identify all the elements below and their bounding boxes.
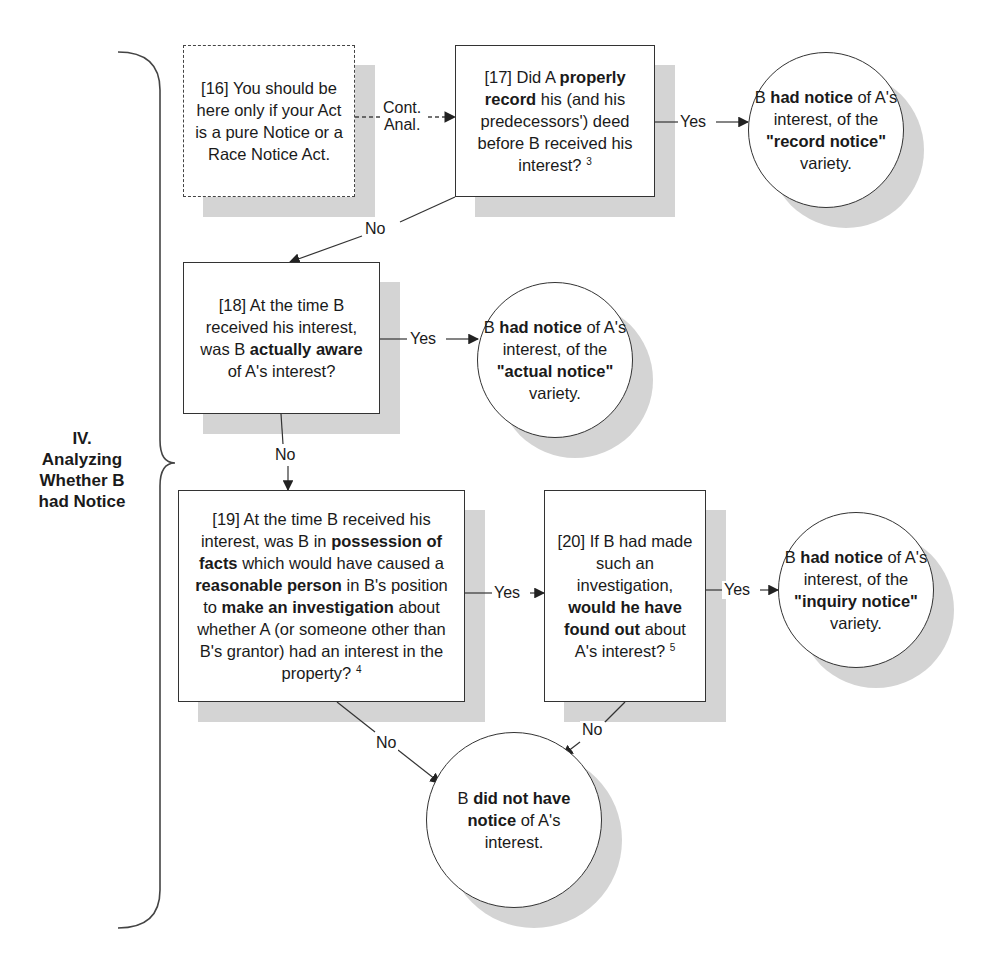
text-bold: actually aware xyxy=(250,340,363,358)
inquiry-notice-text: B had notice of A's interest, of the "in… xyxy=(782,546,930,634)
cont-line-2: Anal. xyxy=(383,116,421,133)
node-17-text-a: [17] Did A xyxy=(484,68,559,86)
node-17-text: [17] Did A properly record his (and his … xyxy=(464,66,646,176)
record-notice-text: B had notice of A's interest, of the "re… xyxy=(752,86,900,174)
text: variety. xyxy=(529,384,581,402)
node-19-text: [19] At the time B received his interest… xyxy=(189,508,454,684)
node-19: [19] At the time B received his interest… xyxy=(178,490,465,702)
edge-label-19-no: No xyxy=(374,734,398,752)
edge-label-cont-anal: Cont. Anal. xyxy=(381,99,423,133)
text: [20] If B had made such an investigation… xyxy=(558,532,693,594)
section-title-line-3: had Notice xyxy=(28,491,136,512)
footnote-5: 5 xyxy=(670,642,676,653)
text: B xyxy=(755,88,771,106)
text-bold: "record notice" xyxy=(766,132,886,150)
no-notice-outcome: B did not have notice of A's interest. xyxy=(426,732,602,908)
text-bold: "actual notice" xyxy=(497,362,614,380)
text: B xyxy=(484,318,500,336)
node-16-text: [16] You should be here only if your Act… xyxy=(194,77,344,165)
footnote-3: 3 xyxy=(586,156,592,167)
text: variety. xyxy=(830,614,882,632)
edge-label-17-no: No xyxy=(363,220,387,238)
cont-line-1: Cont. xyxy=(383,99,421,116)
edge-label-19-yes: Yes xyxy=(492,584,522,602)
node-17: [17] Did A properly record his (and his … xyxy=(455,45,655,197)
edge-label-18-no: No xyxy=(273,446,297,464)
text-bold: reasonable person xyxy=(195,576,342,594)
node-16: [16] You should be here only if your Act… xyxy=(183,45,355,197)
inquiry-notice-outcome: B had notice of A's interest, of the "in… xyxy=(778,512,934,668)
section-label: IV. Analyzing Whether B had Notice xyxy=(28,428,136,512)
text: variety. xyxy=(800,154,852,172)
section-title-line-2: Whether B xyxy=(28,470,136,491)
flowchart-canvas: IV. Analyzing Whether B had Notice [16] … xyxy=(0,0,996,966)
section-title-line-1: Analyzing xyxy=(28,449,136,470)
no-notice-text: B did not have notice of A's interest. xyxy=(453,787,575,853)
node-18: [18] At the time B received his interest… xyxy=(183,262,380,414)
text-bold: make an investigation xyxy=(222,598,394,616)
actual-notice-outcome: B had notice of A's interest, of the "ac… xyxy=(477,282,633,438)
text: of A's interest? xyxy=(228,362,336,380)
section-number: IV. xyxy=(28,428,136,449)
actual-notice-text: B had notice of A's interest, of the "ac… xyxy=(481,316,629,404)
text-bold: had notice xyxy=(770,88,853,106)
edge-label-20-yes: Yes xyxy=(722,581,752,599)
text: which would have caused a xyxy=(238,554,444,572)
record-notice-outcome: B had notice of A's interest, of the "re… xyxy=(748,52,904,208)
text-bold: had notice xyxy=(800,548,883,566)
footnote-4: 4 xyxy=(356,664,362,675)
node-20-text: [20] If B had made such an investigation… xyxy=(555,530,695,662)
text: B xyxy=(458,789,474,807)
text-bold: "inquiry notice" xyxy=(794,592,918,610)
node-18-text: [18] At the time B received his interest… xyxy=(192,294,371,382)
node-20: [20] If B had made such an investigation… xyxy=(544,490,706,702)
edge-label-18-yes: Yes xyxy=(408,330,438,348)
edge-label-17-yes: Yes xyxy=(678,113,708,131)
text: B xyxy=(785,548,801,566)
text-bold: had notice xyxy=(499,318,582,336)
edge-label-20-no: No xyxy=(580,721,604,739)
